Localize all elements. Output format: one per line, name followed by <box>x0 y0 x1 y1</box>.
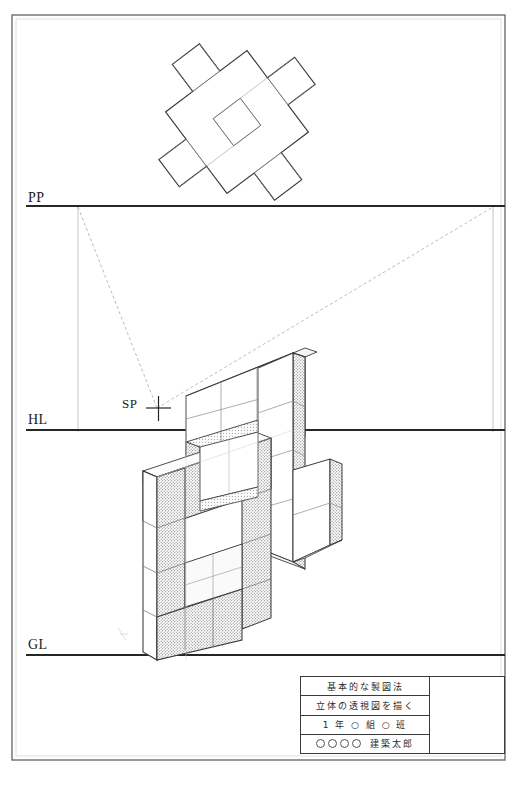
drawing-title-block: 基本的な製図法 立体の透視図を描く 1 年 ○ 組 ○ 班 建築太郎 <box>300 676 505 754</box>
title-block-task-row: 立体の透視図を描く <box>301 696 429 715</box>
grade-circle-icon-1 <box>316 739 325 748</box>
sight-line-right <box>157 207 493 408</box>
task-text: 立体の透視図を描く <box>316 699 415 712</box>
title-block-left-column: 基本的な製図法 立体の透視図を描く 1 年 ○ 組 ○ 班 建築太郎 <box>301 677 430 753</box>
picture-plane-label: PP <box>28 190 45 206</box>
title-block-subject-row: 基本的な製図法 <box>301 677 429 696</box>
drawing-sheet: PP HL GL SP 基本的な製図法 立体の透視図を描く 1 年 ○ 組 ○ … <box>0 0 520 793</box>
horizon-line-label: HL <box>28 412 48 428</box>
grade-circle-icon-3 <box>340 739 349 748</box>
ground-construction-marks <box>118 628 128 640</box>
subject-text: 基本的な製図法 <box>327 680 404 693</box>
left-slab-front <box>143 471 157 660</box>
title-block-blank-cell <box>430 677 504 753</box>
perspective-solid <box>118 348 342 670</box>
name-row-content: 建築太郎 <box>301 737 429 750</box>
right-wing-front <box>293 459 330 562</box>
title-block-name-row: 建築太郎 <box>301 735 429 753</box>
student-name-text: 建築太郎 <box>370 737 414 750</box>
sight-line-left <box>78 207 157 408</box>
ground-line-label: GL <box>28 637 48 653</box>
station-point-label: SP <box>122 396 137 412</box>
technical-drawing-canvas <box>0 0 520 793</box>
title-block-class-row: 1 年 ○ 組 ○ 班 <box>301 716 429 735</box>
right-wing-side <box>330 459 342 545</box>
station-point-marker <box>146 396 171 421</box>
grade-circle-icon-2 <box>328 739 337 748</box>
grade-circle-icon-4 <box>352 739 361 748</box>
class-text: 1 年 ○ 組 ○ 班 <box>323 718 408 731</box>
